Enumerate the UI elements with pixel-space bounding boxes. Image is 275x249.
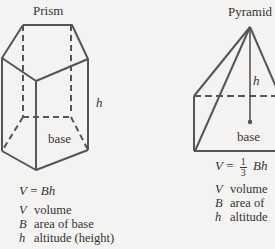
prism-title: Prism [33, 4, 63, 17]
legend-item: Vvolume [19, 203, 114, 217]
legend-item: Barea of base [19, 217, 114, 231]
prism-legend: Vvolume Barea of base haltitude (height) [19, 203, 114, 245]
formula-lhs: V [19, 183, 27, 198]
legend-item: haltitude [215, 210, 268, 224]
formula-eq: = [30, 183, 37, 198]
prism-formula: V = Bh [19, 183, 55, 199]
legend-item: Barea of [215, 196, 268, 210]
pyramid-legend: Vvolume Barea of haltitude [215, 182, 268, 224]
pyramid-title: Pyramid [228, 5, 272, 18]
pyramid-height-label: h [253, 74, 260, 87]
formula-rhs: Bh [41, 183, 55, 198]
pyramid-base-label: base [237, 130, 260, 143]
pyramid-formula: V = 13 Bh [215, 157, 268, 178]
legend-item: haltitude (height) [19, 231, 114, 245]
pyramid-figure [194, 27, 275, 151]
prism-base-label: base [48, 132, 71, 145]
fraction-one-third: 13 [240, 157, 247, 178]
prism-height-label: h [96, 96, 103, 109]
legend-item: Vvolume [215, 182, 268, 196]
